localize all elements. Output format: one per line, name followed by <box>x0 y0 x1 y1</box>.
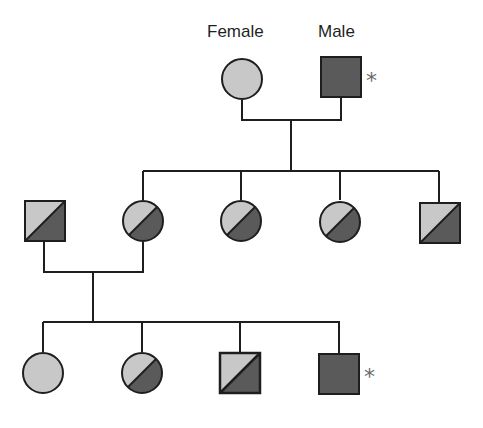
gen2-female-carrier-1 <box>122 200 164 242</box>
gen1-female-unaffected <box>222 59 262 99</box>
gen3-female-unaffected <box>23 353 63 393</box>
gen1-male-affected <box>321 57 361 97</box>
gen2-male-carrier-right <box>420 203 460 243</box>
asterisk-marker-gen3: * <box>364 366 375 388</box>
gen3-female-carrier <box>121 352 163 394</box>
asterisk-marker-gen1: * <box>366 70 377 92</box>
gen2-female-carrier-3 <box>319 201 361 243</box>
gen3-male-carrier <box>220 353 260 393</box>
pedigree-diagram <box>0 0 483 428</box>
gen3-male-affected <box>319 354 359 394</box>
gen2-female-carrier-2 <box>220 200 262 242</box>
gen2-male-carrier <box>25 201 65 241</box>
